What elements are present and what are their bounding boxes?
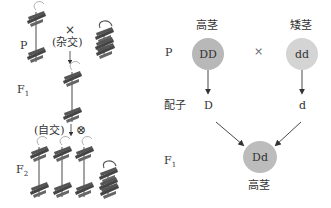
arrow-gamete-to-f1-icon <box>216 122 243 145</box>
parent-genotype-dd-circle: DD <box>192 38 224 70</box>
row-label-f1: F1 <box>164 155 176 171</box>
parent-phenotype-dwarf: 矮茎 <box>290 20 312 32</box>
parent-phenotype-tall: 高茎 <box>196 20 218 32</box>
row-label-p: P <box>165 47 172 59</box>
arrow-gamete-to-f1-icon <box>276 122 301 145</box>
offspring-phenotype: 高茎 <box>248 180 270 192</box>
cross-symbol: × <box>254 46 263 58</box>
row-label-gametes: 配子 <box>164 100 186 112</box>
gamete-dominant: D <box>204 100 213 112</box>
parent-genotype-dd-lower-circle: dd <box>286 38 318 70</box>
gamete-recessive: d <box>299 100 306 112</box>
offspring-genotype-circle: Dd <box>243 141 277 173</box>
